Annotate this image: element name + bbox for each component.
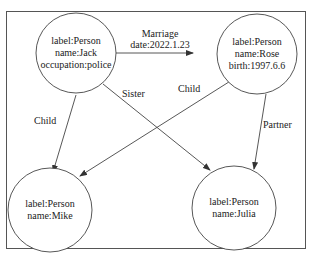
node-attr: label:Person <box>36 35 116 47</box>
edge-label-child-rose: Child <box>178 83 200 94</box>
edge-label-line: Marriage <box>120 28 200 39</box>
node-julia-label: label:Person name:Julia <box>194 196 274 220</box>
node-jack-label: label:Person name:Jack occupation:police <box>36 35 116 71</box>
node-attr: label:Person <box>194 196 274 208</box>
edge-rose-julia <box>254 94 266 169</box>
node-attr: name:Julia <box>194 208 274 220</box>
node-attr: label:Person <box>217 36 297 48</box>
node-attr: birth:1997.6.6 <box>217 60 297 72</box>
edge-label-partner: Partner <box>263 119 292 130</box>
node-attr: name:Mike <box>10 210 90 222</box>
edge-label-line: date:2022.1.23 <box>120 39 200 50</box>
node-attr: label:Person <box>10 198 90 210</box>
edge-jack-julia <box>103 84 210 170</box>
node-rose-label: label:Person name:Rose birth:1997.6.6 <box>217 36 297 72</box>
node-attr: occupation:police <box>36 59 116 71</box>
edge-label-marriage: Marriage date:2022.1.23 <box>120 28 200 50</box>
node-attr: name:Jack <box>36 47 116 59</box>
node-mike-label: label:Person name:Mike <box>10 198 90 222</box>
node-attr: name:Rose <box>217 48 297 60</box>
edge-label-child-jack: Child <box>34 115 56 126</box>
edge-label-sister: Sister <box>122 88 145 99</box>
edge-rose-mike <box>80 80 232 176</box>
edge-jack-mike <box>53 95 76 172</box>
